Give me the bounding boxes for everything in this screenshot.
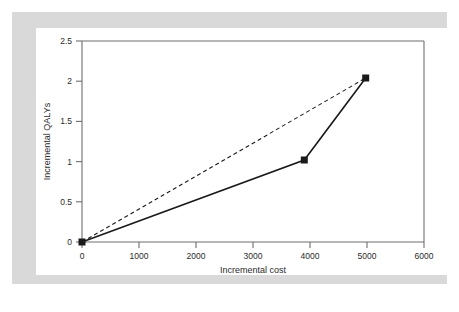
data-point-marker	[79, 239, 86, 246]
x-tick-label: 1000	[130, 251, 149, 261]
y-tick-label: 2.5	[60, 36, 72, 46]
y-tick-label: 0.5	[60, 197, 72, 207]
y-tick-label: 2	[67, 76, 72, 86]
x-tick-label: 6000	[415, 251, 434, 261]
y-tick-label: 0	[67, 237, 72, 247]
y-axis-title: Incremental QALYs	[42, 102, 52, 180]
clipped-caption-text	[300, 303, 450, 312]
y-axis-ticks	[76, 41, 82, 242]
x-axis-ticks	[82, 242, 424, 248]
figure-outer-frame: 0 0.5 1 1.5 2 2.5	[12, 12, 447, 284]
x-tick-label: 0	[80, 251, 85, 261]
data-point-marker	[362, 75, 369, 82]
x-tick-label: 5000	[358, 251, 377, 261]
x-tick-label: 4000	[301, 251, 320, 261]
data-point-marker	[301, 157, 308, 164]
y-tick-label: 1	[67, 157, 72, 167]
x-axis-title: Incremental cost	[220, 265, 287, 275]
x-tick-label: 3000	[244, 251, 263, 261]
figure-white-panel: 0 0.5 1 1.5 2 2.5	[36, 28, 447, 275]
x-tick-label: 2000	[187, 251, 206, 261]
y-tick-label: 1.5	[60, 116, 72, 126]
y-axis-tick-labels: 0 0.5 1 1.5 2 2.5	[60, 36, 72, 247]
screenshot-root: 0 0.5 1 1.5 2 2.5	[0, 0, 459, 312]
x-axis-tick-labels: 0 1000 2000 3000 4000 5000 6000	[80, 251, 434, 261]
series-reference-ray	[82, 78, 366, 242]
cost-effectiveness-plot: 0 0.5 1 1.5 2 2.5	[36, 28, 447, 275]
